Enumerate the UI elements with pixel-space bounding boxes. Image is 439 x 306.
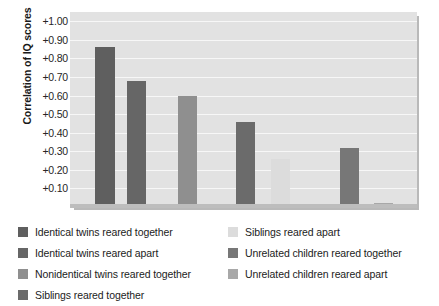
legend-item: Nonidentical twins reared together [18, 264, 223, 283]
legend-label: Identical twins reared apart [35, 247, 158, 259]
y-tick-label: +0.90 [22, 35, 68, 45]
y-tick-label: +1.00 [22, 16, 68, 26]
legend-column-right: Siblings reared apartUnrelated children … [228, 222, 439, 285]
y-axis-tick-labels: +1.00+0.90+0.80+0.70+0.60+0.50+0.40+0.30… [16, 0, 68, 220]
gridline [70, 114, 417, 115]
legend-label: Nonidentical twins reared together [35, 268, 191, 280]
legend-label: Unrelated children reared together [245, 247, 402, 259]
legend-item: Siblings reared together [18, 285, 223, 304]
x-axis-baseline [70, 204, 417, 208]
legend-item: Identical twins reared together [18, 222, 223, 241]
legend-swatch-icon [18, 290, 28, 300]
plot-panel [70, 12, 417, 207]
legend-swatch-icon [228, 269, 238, 279]
legend-label: Unrelated children reared apart [245, 268, 387, 280]
legend-swatch-icon [18, 227, 28, 237]
legend-label: Identical twins reared together [35, 226, 173, 238]
gridline [70, 21, 417, 22]
legend-swatch-icon [228, 227, 238, 237]
gridline [70, 77, 417, 78]
legend-swatch-icon [228, 248, 238, 258]
y-tick-label: +0.10 [22, 183, 68, 193]
legend-label: Siblings reared apart [245, 226, 340, 238]
gridline [70, 58, 417, 59]
bar-4 [271, 159, 290, 207]
bar-0 [95, 47, 115, 207]
y-tick-label: +0.50 [22, 109, 68, 119]
bar-2 [178, 96, 197, 207]
bar-5 [340, 148, 359, 207]
bar-3 [236, 122, 255, 207]
y-tick-label: +0.20 [22, 165, 68, 175]
legend-item: Identical twins reared apart [18, 243, 223, 262]
y-tick-label: +0.30 [22, 146, 68, 156]
legend-item: Siblings reared apart [228, 222, 439, 241]
legend-column-left: Identical twins reared togetherIdentical… [18, 222, 223, 306]
legend-swatch-icon [18, 269, 28, 279]
legend-label: Siblings reared together [35, 289, 144, 301]
y-tick-label: +0.80 [22, 53, 68, 63]
y-tick-label: +0.40 [22, 128, 68, 138]
chart-plot-region: Correlation of IQ scores +1.00+0.90+0.80… [0, 0, 439, 220]
chart-legend: Identical twins reared togetherIdentical… [0, 222, 439, 306]
legend-item: Unrelated children reared together [228, 243, 439, 262]
bar-1 [127, 81, 146, 207]
legend-item: Unrelated children reared apart [228, 264, 439, 283]
gridline [70, 96, 417, 97]
y-tick-label: +0.60 [22, 91, 68, 101]
gridline [70, 40, 417, 41]
y-tick-label: +0.70 [22, 72, 68, 82]
legend-swatch-icon [18, 248, 28, 258]
chart-figure: Correlation of IQ scores +1.00+0.90+0.80… [0, 0, 439, 306]
